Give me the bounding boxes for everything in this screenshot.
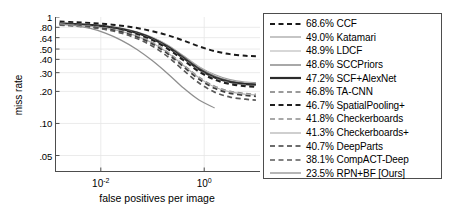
legend-label: 40.7% DeepParts — [306, 141, 383, 152]
legend-line-sample — [270, 155, 301, 165]
legend-item[interactable]: 47.2% SCF+AlexNet — [264, 71, 441, 85]
legend-line-sample — [270, 168, 301, 178]
legend-item[interactable]: 41.3% Checkerboards+ — [264, 126, 441, 140]
series-line-ta-cnn — [60, 24, 256, 86]
legend-label: 23.5% RPN+BF [Ours] — [306, 168, 405, 179]
legend-line-sample — [270, 73, 301, 83]
legend-label: 41.8% Checkerboards — [306, 113, 403, 124]
legend-label: 38.1% CompACT-Deep — [306, 154, 409, 165]
legend-item[interactable]: 40.7% DeepParts — [264, 139, 441, 153]
series-line-deepparts — [60, 25, 256, 97]
legend-label: 48.6% SCCPriors — [306, 59, 383, 70]
legend-label: 68.6% CCF — [306, 18, 357, 29]
series-line-spatialpooling — [60, 24, 256, 87]
legend-item[interactable]: 48.6% SCCPriors — [264, 58, 441, 72]
legend-item[interactable]: 49.0% Katamari — [264, 31, 441, 45]
legend-item[interactable]: 46.8% TA-CNN — [264, 85, 441, 99]
legend-label: 46.8% TA-CNN — [306, 86, 373, 97]
y-tick-label: .05 — [39, 150, 52, 161]
x-tick-label: 10-2 — [92, 177, 109, 189]
legend-label: 46.7% SpatialPooling+ — [306, 100, 405, 111]
x-tick-label: 100 — [197, 177, 212, 189]
legend-line-sample — [270, 19, 301, 29]
legend: 68.6% CCF49.0% Katamari48.9% LDCF48.6% S… — [263, 13, 442, 179]
y-tick-label: .64 — [39, 32, 52, 43]
legend-line-sample — [270, 46, 301, 56]
legend-line-sample — [270, 128, 301, 138]
plot-area — [55, 17, 260, 172]
legend-item[interactable]: 38.1% CompACT-Deep — [264, 153, 441, 167]
plot-canvas — [55, 17, 260, 172]
legend-line-sample — [270, 141, 301, 151]
legend-line-sample — [270, 32, 301, 42]
legend-line-sample — [270, 87, 301, 97]
legend-line-sample — [270, 100, 301, 110]
series-line-compact-deep — [60, 25, 256, 100]
legend-label: 49.0% Katamari — [306, 32, 376, 43]
legend-label: 48.9% LDCF — [306, 45, 362, 56]
legend-line-sample — [270, 114, 301, 124]
y-tick-label: .20 — [39, 86, 52, 97]
legend-item[interactable]: 48.9% LDCF — [264, 44, 441, 58]
legend-line-sample — [270, 60, 301, 70]
x-axis-label: false positives per image — [99, 192, 215, 204]
legend-item[interactable]: 41.8% Checkerboards — [264, 112, 441, 126]
y-tick-label: .10 — [39, 118, 52, 129]
chart-root: miss rate 1.80.64.50.40.30.20.10.05 10-2… — [0, 0, 461, 216]
y-tick-label: .30 — [39, 67, 52, 78]
legend-label: 47.2% SCF+AlexNet — [306, 73, 396, 84]
legend-item[interactable]: 46.7% SpatialPooling+ — [264, 99, 441, 113]
legend-item[interactable]: 23.5% RPN+BF [Ours] — [264, 167, 441, 181]
y-tick-label: .40 — [39, 54, 52, 65]
y-axis-tick-labels: 1.80.64.50.40.30.20.10.05 — [0, 0, 52, 216]
legend-label: 41.3% Checkerboards+ — [306, 127, 409, 138]
legend-item[interactable]: 68.6% CCF — [264, 17, 441, 31]
